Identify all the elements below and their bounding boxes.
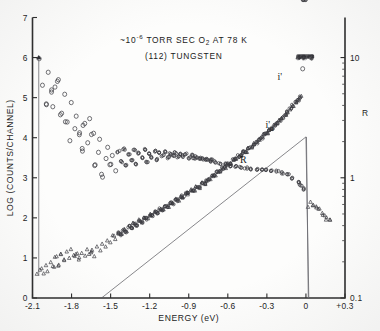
data-point-circle [301, 67, 305, 71]
chart-title-line-1: ~10-6 TORR SEC O2 AT 78 K [120, 33, 248, 46]
data-point-circle [100, 172, 104, 176]
data-point-triangle [106, 239, 110, 242]
data-point-circle [104, 156, 108, 160]
zero-edge-line [306, 137, 308, 298]
y2-tick-label: 0.1 [350, 293, 362, 303]
y-tick-label: 7 [23, 13, 28, 23]
data-point-circle [106, 145, 110, 149]
data-point-circle [69, 100, 73, 104]
chart-title-line-2: (112) TUNGSTEN [145, 51, 223, 61]
y2-axis-title: R [362, 108, 368, 118]
y-tick-label: 2 [23, 213, 28, 223]
data-point-triangle [328, 218, 331, 221]
data-point-triangle [59, 252, 62, 255]
data-point-triangle [93, 254, 97, 257]
data-point-triangle [80, 251, 84, 254]
data-point-circle [98, 137, 102, 141]
x-tick-label: 0 [304, 301, 309, 311]
data-point-triangle [99, 249, 103, 252]
x-tick-label: -0.9 [181, 301, 196, 311]
y2-tick-label: 10 [350, 53, 360, 63]
curve-label-r: R [240, 154, 247, 165]
y-tick-label: 0 [23, 293, 28, 303]
figure-container: -2.1-1.8-1.5-1.2-0.9-0.6-0.30+0.3ENERGY … [0, 0, 380, 331]
data-point-circle [63, 92, 67, 96]
data-point-triangle [104, 245, 108, 248]
data-point-triangle [83, 254, 87, 257]
data-point-triangle [114, 237, 118, 240]
data-point-circle [114, 169, 118, 173]
data-point-circle [80, 146, 84, 150]
series-dense-blob [296, 54, 315, 60]
data-point-triangle [35, 272, 39, 275]
y2-tick-label: 1 [350, 173, 355, 183]
x-tick-label: -0.6 [220, 301, 235, 311]
data-point-triangle [109, 240, 113, 243]
plot-canvas: -2.1-1.8-1.5-1.2-0.9-0.6-0.30+0.3ENERGY … [0, 0, 380, 331]
data-point-triangle [49, 260, 53, 263]
data-point-circle [68, 139, 72, 143]
data-point-circle [74, 114, 78, 118]
curve-label-i-prime-zero: i'0 [265, 119, 274, 133]
data-point-circle [46, 70, 50, 74]
x-axis-title: ENERGY (eV) [158, 313, 219, 323]
data-point-triangle [40, 267, 43, 270]
data-point-triangle [67, 256, 71, 259]
data-point-triangle [306, 205, 310, 208]
data-point-circle [86, 141, 90, 145]
data-point-triangle [65, 250, 69, 253]
data-point-triangle [69, 247, 73, 250]
y-tick-label: 4 [23, 133, 28, 143]
data-point-circle [96, 150, 100, 154]
data-point-circle [40, 83, 44, 87]
data-point-triangle [95, 245, 99, 248]
curve-label-i-prime: i' [278, 71, 283, 82]
y-tick-label: 3 [23, 173, 28, 183]
data-point-triangle [42, 272, 46, 275]
data-point-circle [110, 153, 114, 157]
y-tick-label: 6 [23, 53, 28, 63]
data-point-triangle [46, 269, 50, 272]
x-tick-label: -0.3 [259, 301, 274, 311]
data-point-triangle [100, 242, 104, 245]
y-tick-label: 5 [23, 93, 28, 103]
data-point-triangle [309, 200, 313, 203]
data-point-circle [101, 175, 105, 179]
x-tick-label: -1.5 [103, 301, 118, 311]
x-tick-label: -1.8 [64, 301, 79, 311]
data-point-circle [73, 127, 77, 131]
y-axis-title: LOG (COUNTS/CHANNEL) [5, 99, 15, 216]
x-tick-label: -1.2 [142, 301, 157, 311]
data-point-circle [88, 116, 92, 120]
data-point-triangle [85, 247, 89, 250]
data-point-triangle [44, 263, 48, 266]
y-tick-label: 1 [23, 253, 28, 263]
data-point-circle [51, 105, 55, 109]
data-point-circle [53, 85, 57, 89]
